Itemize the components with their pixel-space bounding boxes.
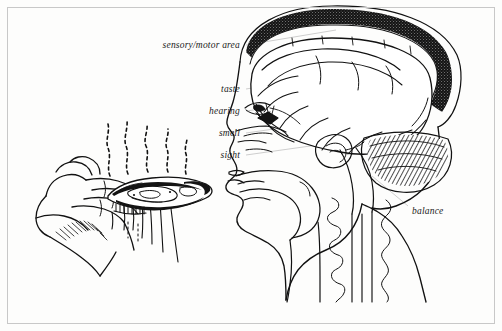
label-hearing: hearing bbox=[209, 106, 240, 116]
label-sight: sight bbox=[221, 150, 240, 160]
label-balance: balance bbox=[412, 206, 443, 216]
label-sensory-motor-area: sensory/motor area bbox=[163, 40, 240, 50]
figure-root: sensory/motor area taste hearing smell s… bbox=[0, 0, 502, 331]
anatomical-illustration bbox=[0, 0, 502, 331]
label-smell: smell bbox=[219, 128, 240, 138]
label-taste: taste bbox=[221, 84, 240, 94]
